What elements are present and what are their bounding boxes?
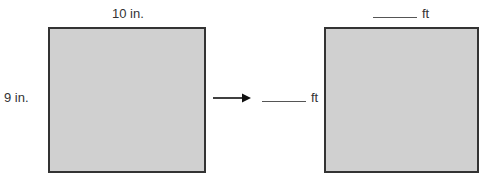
right-height-blank: ft [262, 90, 318, 105]
answer-blank[interactable] [373, 16, 417, 18]
answer-blank[interactable] [262, 100, 306, 102]
unit-label: ft [311, 90, 318, 105]
arrow-right-icon [212, 92, 252, 104]
unit-label: ft [422, 6, 429, 21]
left-height-label: 9 in. [4, 90, 29, 105]
right-width-blank: ft [373, 6, 429, 21]
converted-rectangle [324, 27, 479, 173]
left-width-label: 10 in. [112, 6, 144, 21]
original-rectangle [48, 27, 206, 173]
